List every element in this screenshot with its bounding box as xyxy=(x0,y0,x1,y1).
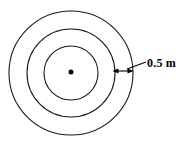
concentric-circles-figure xyxy=(0,0,182,145)
center-point-dot xyxy=(69,70,74,75)
dimension-leader-line xyxy=(127,62,146,69)
dimension-annotation xyxy=(113,62,147,74)
figure-canvas: 0.5 m xyxy=(0,0,182,145)
dimension-value-label: 0.5 m xyxy=(147,56,176,70)
